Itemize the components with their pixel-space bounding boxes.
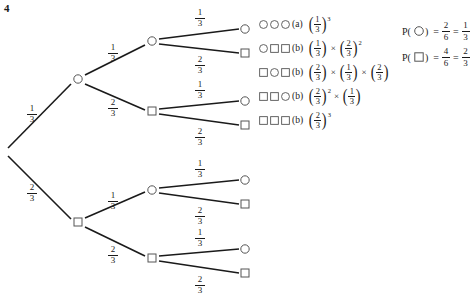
fraction-denominator: 3 xyxy=(316,121,320,130)
left-paren: ( xyxy=(309,88,314,103)
fraction-denominator: 3 xyxy=(347,73,351,82)
fraction-numerator: 2 xyxy=(193,275,207,284)
branch-probability-lbl-l2-a-up: 13 xyxy=(193,8,207,28)
outcomes-list: (a)(13)3(b)(13)×(23)2(b)(23)×(13)×(23)(b… xyxy=(258,12,408,132)
tree-branch xyxy=(159,180,239,188)
fraction-denominator: 3 xyxy=(193,66,207,75)
fraction-denominator: 3 xyxy=(193,138,207,147)
fraction-denominator: 3 xyxy=(193,239,207,248)
outcome-square-icon xyxy=(280,43,291,54)
fraction-denominator: 6 xyxy=(444,33,449,42)
fraction-denominator: 3 xyxy=(193,170,207,179)
right-paren: ) xyxy=(356,88,361,103)
parenthesised-fraction: (13)3 xyxy=(308,15,331,34)
parenthesised-fraction: (23)2 xyxy=(339,39,362,58)
multiplication-sign: × xyxy=(334,91,339,101)
fraction-numerator: 1 xyxy=(316,39,320,48)
outcome-tag: (b) xyxy=(292,67,303,77)
left-paren: ( xyxy=(343,88,348,103)
branch-probability-lbl-l1-top-up: 13 xyxy=(106,43,120,63)
outcome-row: (b)(23)2×(13) xyxy=(258,84,408,108)
left-paren: ( xyxy=(309,64,314,79)
multiplication-sign: × xyxy=(361,67,366,77)
outcome-square-icon xyxy=(269,91,280,102)
outcome-sequence xyxy=(258,42,291,54)
fraction-denominator: 3 xyxy=(106,202,120,211)
parenthesised-fraction: (13) xyxy=(308,39,328,58)
fraction-numerator: 2 xyxy=(25,183,39,192)
fraction-numerator: 2 xyxy=(193,206,207,215)
fraction: 13 xyxy=(314,39,321,58)
node-square-icon xyxy=(74,218,82,226)
branch-probability-lbl-l2-a-down: 23 xyxy=(193,55,207,75)
equals-sign: = xyxy=(433,26,439,37)
probability-suffix: ) xyxy=(425,52,428,63)
fraction-numerator: 1 xyxy=(315,15,319,24)
parenthesised-fraction: (23)2 xyxy=(308,87,331,106)
exponent: 3 xyxy=(327,15,330,22)
fraction-denominator: 3 xyxy=(315,25,319,34)
fraction: 23 xyxy=(314,87,321,106)
outcome-sequence xyxy=(258,90,291,102)
outcome-square-icon xyxy=(258,115,269,126)
branch-probability-lbl-l2-b-down: 23 xyxy=(193,127,207,147)
fraction-denominator: 3 xyxy=(347,49,351,58)
branch-probability-lbl-root-down: 23 xyxy=(25,183,39,203)
outcome-square-icon xyxy=(258,67,269,78)
parenthesised-fraction: (13) xyxy=(342,87,362,106)
node-circle-icon xyxy=(148,37,156,45)
node-square-icon xyxy=(148,107,156,115)
node-square-icon xyxy=(241,269,249,277)
tree-diagram-canvas: 4 1323132313231323132313231323 (a)(13)3(… xyxy=(0,0,475,308)
fraction-numerator: 2 xyxy=(316,63,320,72)
tree-branch xyxy=(159,29,239,39)
tree-branch xyxy=(159,261,239,273)
right-paren: ) xyxy=(384,64,389,79)
right-paren: ) xyxy=(322,112,327,127)
outcome-sequence xyxy=(258,18,291,30)
node-square-icon xyxy=(148,254,156,262)
probability-statement: P()=46=23 xyxy=(402,44,470,70)
right-paren: ) xyxy=(353,40,358,55)
fraction-numerator: 1 xyxy=(193,8,207,17)
probability-summary: P()=26=13P()=46=23 xyxy=(402,18,470,70)
parenthesised-fraction: (13) xyxy=(339,63,359,82)
fraction-numerator: 2 xyxy=(463,47,468,56)
outcome-circle-icon xyxy=(258,19,269,30)
outcome-row: (a)(13)3 xyxy=(258,12,408,36)
left-paren: ( xyxy=(308,16,313,31)
branch-probability-lbl-l2-d-down: 23 xyxy=(193,275,207,295)
outcome-circle-icon xyxy=(413,25,425,37)
fraction-numerator: 4 xyxy=(444,47,449,56)
fraction-denominator: 3 xyxy=(316,73,320,82)
parenthesised-fraction: (23) xyxy=(370,63,390,82)
outcome-tag: (b) xyxy=(292,115,303,125)
right-paren: ) xyxy=(322,16,327,31)
right-paren: ) xyxy=(322,40,327,55)
outcome-square-icon xyxy=(269,115,280,126)
fraction-denominator: 3 xyxy=(193,91,207,100)
fraction-denominator: 3 xyxy=(25,194,39,203)
node-square-icon xyxy=(241,49,249,57)
fraction-denominator: 3 xyxy=(106,256,120,265)
outcome-expression: (13)×(23)2 xyxy=(308,39,362,58)
fraction-denominator: 3 xyxy=(316,97,320,106)
tree-branch xyxy=(8,84,71,148)
left-paren: ( xyxy=(340,40,345,55)
fraction-numerator: 1 xyxy=(106,43,120,52)
outcome-circle-icon xyxy=(269,19,280,30)
fraction-denominator: 3 xyxy=(463,59,468,68)
fraction: 46 xyxy=(442,47,450,68)
outcome-square-icon xyxy=(269,43,280,54)
exponent: 2 xyxy=(358,39,361,46)
fraction: 13 xyxy=(462,21,470,42)
right-paren: ) xyxy=(322,64,327,79)
node-circle-icon xyxy=(241,25,249,33)
fraction-numerator: 2 xyxy=(106,245,120,254)
fraction: 23 xyxy=(462,47,470,68)
probability-prefix: P( xyxy=(402,26,411,37)
fraction-denominator: 3 xyxy=(350,97,354,106)
fraction-numerator: 2 xyxy=(193,55,207,64)
fraction-numerator: 1 xyxy=(347,63,351,72)
fraction-denominator: 3 xyxy=(193,286,207,295)
